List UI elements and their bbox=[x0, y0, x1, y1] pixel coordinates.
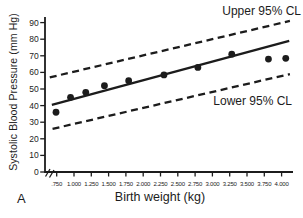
x-tick-label: 2.750 bbox=[188, 181, 203, 187]
data-point bbox=[228, 51, 235, 58]
data-point bbox=[82, 89, 89, 96]
x-tick-label: 4.000 bbox=[275, 181, 290, 187]
x-tick-label: 1.750 bbox=[119, 181, 134, 187]
x-tick-label: 3.500 bbox=[240, 181, 255, 187]
x-tick-label: 1.250 bbox=[84, 181, 99, 187]
y-tick-label: 60 bbox=[29, 67, 39, 77]
y-tick-label: 50 bbox=[29, 84, 39, 94]
chart-svg: 0102030405060708090.7501.0001.2501.5001.… bbox=[0, 0, 303, 218]
y-tick-label: 30 bbox=[29, 117, 39, 127]
data-point bbox=[265, 56, 272, 63]
y-tick-label: 80 bbox=[29, 34, 39, 44]
x-tick-label: 2.500 bbox=[171, 181, 186, 187]
data-point bbox=[282, 55, 289, 62]
x-tick-label: 1.500 bbox=[102, 181, 117, 187]
data-point bbox=[101, 82, 108, 89]
lower-cl-annotation: Lower 95% CL bbox=[213, 95, 292, 108]
y-tick-label: 40 bbox=[29, 101, 39, 111]
scatter-regression-figure: 0102030405060708090.7501.0001.2501.5001.… bbox=[0, 0, 303, 218]
y-tick-label: 10 bbox=[29, 150, 39, 160]
x-tick-label: 3.750 bbox=[257, 181, 272, 187]
x-tick-label: 1.000 bbox=[67, 181, 82, 187]
data-point bbox=[53, 109, 60, 116]
y-tick-label: 90 bbox=[29, 18, 39, 28]
data-point bbox=[125, 77, 132, 84]
x-tick-label: 2.250 bbox=[153, 181, 168, 187]
y-tick-label: 0 bbox=[34, 167, 39, 177]
x-tick-label: 2.000 bbox=[136, 181, 151, 187]
y-tick-label: 70 bbox=[29, 51, 39, 61]
upper-cl-annotation: Upper 95% CL bbox=[222, 5, 301, 18]
x-tick-label: 3.000 bbox=[205, 181, 220, 187]
data-point bbox=[194, 64, 201, 71]
panel-label: A bbox=[17, 192, 26, 206]
data-point bbox=[161, 71, 168, 78]
data-point bbox=[67, 94, 74, 101]
x-tick-label: .750 bbox=[51, 181, 63, 187]
x-tick-label: 3.250 bbox=[223, 181, 238, 187]
axis-break-mark bbox=[46, 169, 55, 178]
x-axis-title: Birth weight (kg) bbox=[115, 191, 205, 205]
y-axis-title: Systolic Blood Pressure (mm Hg) bbox=[8, 13, 20, 171]
y-tick-label: 20 bbox=[29, 134, 39, 144]
upper-cl-line bbox=[50, 21, 290, 77]
